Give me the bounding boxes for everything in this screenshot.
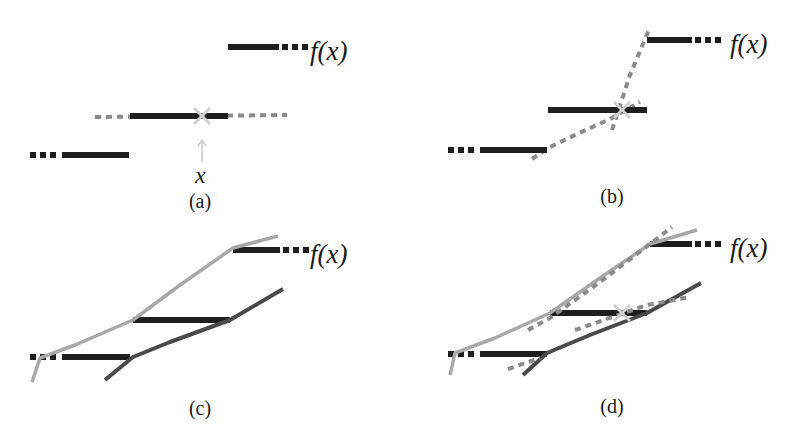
upper-light-line bbox=[32, 236, 278, 382]
diagram-canvas: f(x) x (a) f(x) (b) f(x) (c) f(x) (d) bbox=[0, 0, 806, 441]
panel-caption-b: (b) bbox=[600, 185, 623, 208]
step-function bbox=[30, 44, 308, 158]
panel-d: f(x) (d) bbox=[448, 227, 767, 418]
fx-label: f(x) bbox=[310, 239, 347, 269]
fx-label: f(x) bbox=[310, 36, 347, 66]
lower-dark-line bbox=[105, 289, 283, 380]
panel-a: f(x) x (a) bbox=[30, 36, 347, 213]
panel-caption-a: (a) bbox=[189, 190, 211, 213]
panel-b: f(x) (b) bbox=[448, 27, 767, 208]
fx-label: f(x) bbox=[730, 233, 767, 263]
step-function bbox=[448, 37, 721, 153]
panel-caption-d: (d) bbox=[600, 395, 623, 418]
fx-label: f(x) bbox=[730, 29, 767, 59]
dashed-line bbox=[508, 227, 690, 369]
dashed-line bbox=[532, 27, 650, 159]
x-label: x bbox=[194, 162, 206, 188]
arrow-up-icon bbox=[198, 140, 206, 162]
lower-dark-line bbox=[523, 283, 701, 375]
panel-caption-c: (c) bbox=[189, 397, 211, 420]
panel-c: f(x) (c) bbox=[30, 236, 347, 420]
